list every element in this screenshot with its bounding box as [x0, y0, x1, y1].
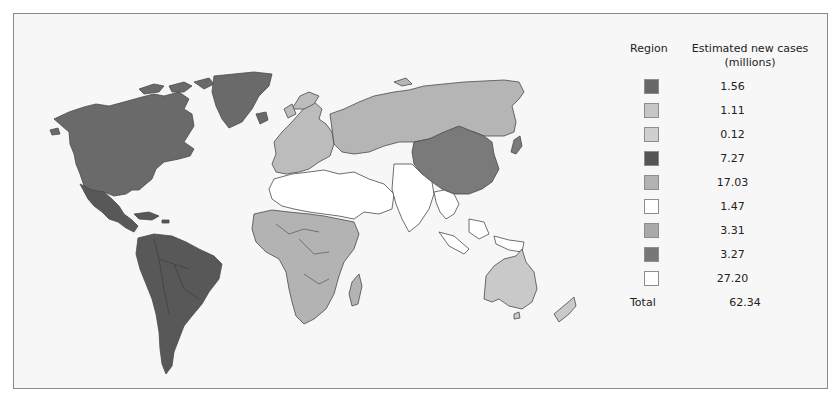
legend-value: 27.20 [659, 272, 816, 285]
legend-header-region: Region [626, 42, 684, 55]
legend-header-cases-title: Estimated new cases [684, 42, 816, 56]
legend-swatch [644, 103, 659, 118]
legend-total-row: Total 62.34 [626, 290, 816, 314]
legend-swatch [644, 175, 659, 190]
legend-value: 7.27 [659, 152, 816, 165]
legend-value: 1.56 [659, 80, 816, 93]
legend-swatch [644, 223, 659, 238]
legend-row: 1.47 [626, 194, 816, 218]
legend-row: 3.27 [626, 242, 816, 266]
legend-swatch [644, 247, 659, 262]
legend-swatch [644, 127, 659, 142]
region-north-america [54, 92, 194, 196]
legend-header-cases: Estimated new cases (millions) [684, 42, 816, 70]
legend-row: 0.12 [626, 122, 816, 146]
legend-value: 1.47 [659, 200, 816, 213]
world-map [14, 14, 634, 388]
legend-row: 3.31 [626, 218, 816, 242]
region-australia [484, 249, 537, 309]
legend-row: 17.03 [626, 170, 816, 194]
region-western-europe [272, 102, 334, 174]
legend-header: Region Estimated new cases (millions) [626, 42, 816, 70]
region-south-america [136, 234, 222, 374]
legend-swatch [644, 199, 659, 214]
legend-swatch [644, 79, 659, 94]
legend-swatch [644, 151, 659, 166]
legend-row: 1.56 [626, 74, 816, 98]
legend-value: 3.27 [659, 248, 816, 261]
legend-row: 7.27 [626, 146, 816, 170]
legend-value: 17.03 [659, 176, 816, 189]
legend-value: 3.31 [659, 224, 816, 237]
legend-header-units: (millions) [684, 56, 816, 70]
legend-total-value: 62.34 [684, 296, 816, 309]
legend-value: 0.12 [659, 128, 816, 141]
legend-swatch [644, 271, 659, 286]
legend-total-label: Total [626, 296, 684, 309]
legend-row: 1.11 [626, 98, 816, 122]
legend: Region Estimated new cases (millions) 1.… [626, 42, 816, 314]
legend-value: 1.11 [659, 104, 816, 117]
legend-row: 27.20 [626, 266, 816, 290]
region-sub-saharan-africa [252, 210, 359, 324]
figure-frame: Region Estimated new cases (millions) 1.… [13, 13, 828, 389]
